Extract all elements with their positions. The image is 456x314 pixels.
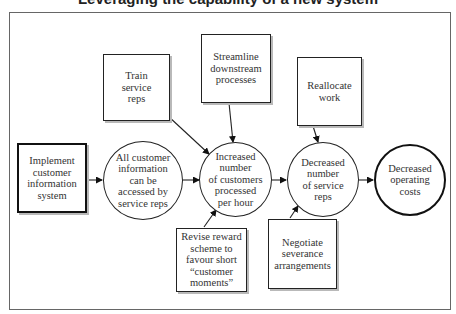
node-decreased-service-reps: Decreased number of service reps (287, 142, 359, 217)
node-label: Streamline downstream processes (208, 51, 263, 86)
edge-reallocate-to-decreased-reps (313, 126, 318, 142)
node-all-customer-information: All customer information can be accessed… (103, 141, 183, 220)
node-reallocate-work: Reallocate work (297, 57, 362, 126)
node-decreased-operating-costs: Decreased operating costs (374, 144, 446, 216)
edge-negotiate-to-decreased-reps (290, 206, 298, 218)
node-revise-reward-scheme: Revise reward scheme to favour short “cu… (176, 228, 247, 292)
node-label: Increased number of customers processed … (207, 151, 265, 209)
node-label: Implement customer information system (25, 155, 79, 201)
edge-revise-to-increased (204, 210, 216, 227)
node-label: Negotiate severance arrangements (272, 237, 333, 272)
edge-streamline-to-increased (229, 103, 233, 142)
node-streamline-downstream-processes: Streamline downstream processes (201, 34, 271, 103)
node-label: Decreased operating costs (386, 163, 434, 198)
node-increased-customers-processed: Increased number of customers processed … (199, 142, 272, 217)
node-label: Decreased number of service reps (299, 157, 347, 203)
node-label: Train service reps (120, 70, 154, 105)
node-label: All customer information can be accessed… (114, 152, 173, 210)
node-label: Revise reward scheme to favour short “cu… (179, 231, 243, 289)
node-label: Reallocate work (305, 80, 353, 103)
node-train-service-reps: Train service reps (103, 54, 170, 121)
edge-train-to-increased (168, 116, 209, 154)
node-implement-customer-information-system: Implement customer information system (17, 143, 87, 213)
node-negotiate-severance: Negotiate severance arrangements (268, 219, 337, 289)
